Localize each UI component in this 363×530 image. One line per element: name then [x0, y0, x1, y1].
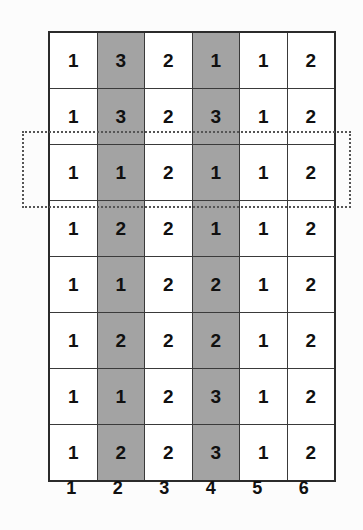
grid-cell-r1c6[interactable]: 2: [287, 32, 335, 89]
grid-cell-r5c2[interactable]: 1: [97, 257, 145, 313]
table-row: 1 2 2 3 1 2: [49, 425, 335, 482]
grid-cell-r6c2[interactable]: 2: [97, 313, 145, 369]
column-label-6: 6: [281, 478, 328, 499]
grid-cell-r2c1[interactable]: 1: [49, 89, 97, 145]
grid-cell-r3c3[interactable]: 2: [145, 145, 193, 201]
grid-cell-r3c2[interactable]: 1: [97, 145, 145, 201]
grid-cell-r8c3[interactable]: 2: [145, 425, 193, 482]
figure-canvas: 1 3 2 1 1 2 1 3 2 3 1 2 1 1 2 1 1: [0, 0, 363, 530]
grid-cell-r4c3[interactable]: 2: [145, 201, 193, 257]
column-label-2: 2: [95, 478, 142, 499]
column-label-3: 3: [141, 478, 188, 499]
grid-cell-r1c3[interactable]: 2: [145, 32, 193, 89]
grid-cell-r3c1[interactable]: 1: [49, 145, 97, 201]
grid-cell-r1c5[interactable]: 1: [240, 32, 288, 89]
grid-cell-r6c6[interactable]: 2: [287, 313, 335, 369]
grid-cell-r1c4[interactable]: 1: [192, 32, 240, 89]
grid-cell-r2c5[interactable]: 1: [240, 89, 288, 145]
grid-cell-r7c2[interactable]: 1: [97, 369, 145, 425]
grid-cell-r8c1[interactable]: 1: [49, 425, 97, 482]
grid-cell-r4c6[interactable]: 2: [287, 201, 335, 257]
column-axis-labels: 1 2 3 4 5 6: [48, 478, 327, 499]
grid-cell-r6c1[interactable]: 1: [49, 313, 97, 369]
column-label-1: 1: [48, 478, 95, 499]
grid-cell-r7c3[interactable]: 2: [145, 369, 193, 425]
grid-cell-r8c2[interactable]: 2: [97, 425, 145, 482]
grid-body: 1 3 2 1 1 2 1 3 2 3 1 2 1 1 2 1 1: [49, 32, 335, 481]
grid-cell-r3c4[interactable]: 1: [192, 145, 240, 201]
grid-cell-r1c2[interactable]: 3: [97, 32, 145, 89]
grid-cell-r4c5[interactable]: 1: [240, 201, 288, 257]
grid-cell-r2c6[interactable]: 2: [287, 89, 335, 145]
grid-cell-r2c2[interactable]: 3: [97, 89, 145, 145]
grid-cell-r4c4[interactable]: 1: [192, 201, 240, 257]
grid-cell-r8c5[interactable]: 1: [240, 425, 288, 482]
table-row: 1 3 2 1 1 2: [49, 32, 335, 89]
grid-cell-r2c4[interactable]: 3: [192, 89, 240, 145]
table-row: 1 1 2 2 1 2: [49, 257, 335, 313]
grid-cell-r5c4[interactable]: 2: [192, 257, 240, 313]
grid-cell-r3c6[interactable]: 2: [287, 145, 335, 201]
column-label-5: 5: [234, 478, 281, 499]
grid-cell-r7c6[interactable]: 2: [287, 369, 335, 425]
grid-cell-r5c6[interactable]: 2: [287, 257, 335, 313]
table-row: 1 1 2 1 1 2: [49, 145, 335, 201]
grid-cell-r7c1[interactable]: 1: [49, 369, 97, 425]
grid-cell-r4c2[interactable]: 2: [97, 201, 145, 257]
grid-cell-r6c5[interactable]: 1: [240, 313, 288, 369]
table-row: 1 2 2 2 1 2: [49, 313, 335, 369]
value-grid: 1 3 2 1 1 2 1 3 2 3 1 2 1 1 2 1 1: [48, 31, 336, 482]
grid-cell-r1c1[interactable]: 1: [49, 32, 97, 89]
grid-cell-r5c1[interactable]: 1: [49, 257, 97, 313]
grid-cell-r6c3[interactable]: 2: [145, 313, 193, 369]
table-row: 1 3 2 3 1 2: [49, 89, 335, 145]
grid-cell-r7c5[interactable]: 1: [240, 369, 288, 425]
grid-cell-r5c3[interactable]: 2: [145, 257, 193, 313]
table-row: 1 1 2 3 1 2: [49, 369, 335, 425]
grid-cell-r8c6[interactable]: 2: [287, 425, 335, 482]
grid-cell-r2c3[interactable]: 2: [145, 89, 193, 145]
grid-cell-r5c5[interactable]: 1: [240, 257, 288, 313]
grid-cell-r4c1[interactable]: 1: [49, 201, 97, 257]
grid-cell-r7c4[interactable]: 3: [192, 369, 240, 425]
grid-cell-r3c5[interactable]: 1: [240, 145, 288, 201]
grid-cell-r8c4[interactable]: 3: [192, 425, 240, 482]
column-label-4: 4: [188, 478, 235, 499]
grid-cell-r6c4[interactable]: 2: [192, 313, 240, 369]
table-row: 1 2 2 1 1 2: [49, 201, 335, 257]
